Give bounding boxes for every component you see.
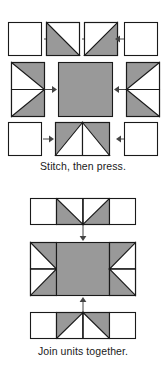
flying-geese-pair-right [127, 63, 160, 117]
flying-geese-pair-left-2 [31, 243, 57, 296]
center-square-2 [57, 243, 110, 296]
caption-stitch-then-press: Stitch, then press. [0, 160, 166, 172]
plain-square-left-4 [31, 313, 57, 339]
plain-square-left-3 [31, 199, 57, 225]
arrow-right-4 [43, 136, 54, 143]
half-square-triangle-left [47, 23, 80, 56]
arrow-up-1 [80, 297, 87, 313]
plain-square-left [9, 23, 42, 56]
flying-geese-pair-left [12, 63, 45, 117]
half-square-triangle-right [85, 23, 118, 56]
quilt-instruction-page: Stitch, then press. [0, 0, 166, 372]
flying-geese-pair-right-2 [110, 243, 136, 296]
diagram-stitch-then-press [0, 0, 166, 186]
plain-square-left-2 [9, 123, 42, 156]
flying-geese-pair-down [57, 199, 110, 225]
flying-geese-pair-up [57, 313, 110, 339]
join-diagram-svg [0, 186, 166, 346]
arrow-right-3 [45, 86, 57, 93]
flying-geese-pair-bottom [56, 123, 110, 156]
plain-square-right-3 [110, 199, 136, 225]
plain-square-right [125, 23, 158, 56]
bottom-unit-row [31, 313, 136, 339]
center-square [59, 63, 113, 117]
plain-square-right-2 [125, 123, 158, 156]
arrow-down-1 [80, 225, 87, 241]
stitch-diagram-svg [0, 0, 166, 160]
top-unit-row [31, 199, 136, 225]
middle-unit-row [31, 243, 136, 296]
arrow-left-2 [114, 86, 126, 93]
caption-join-units-together: Join units together. [0, 345, 166, 357]
plain-square-right-4 [110, 313, 136, 339]
